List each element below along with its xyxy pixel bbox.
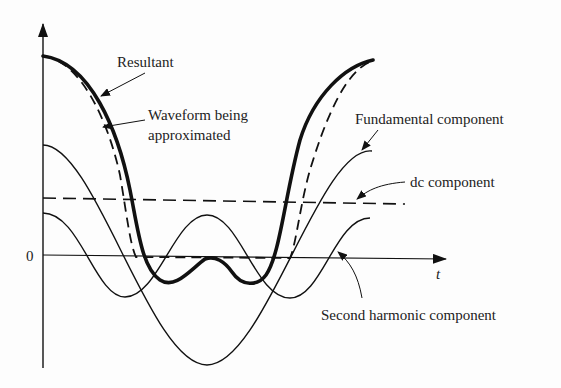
dc-component-line	[43, 198, 405, 204]
dc-label: dc component	[410, 174, 495, 190]
resultant-label: Resultant	[117, 54, 174, 70]
second-harmonic-label: Second harmonic component	[321, 307, 497, 323]
fundamental-arrow	[362, 130, 378, 150]
resultant-arrow	[101, 73, 145, 96]
resultant-curve	[43, 56, 373, 283]
fundamental-label: Fundamental component	[355, 111, 505, 127]
waveform-label-line1: Waveform being	[148, 107, 249, 123]
t-axis-label: t	[436, 266, 441, 282]
diagram-canvas: 0 t Resultant Waveform being approximate…	[0, 0, 561, 388]
dc-arrow	[357, 182, 405, 199]
origin-label: 0	[26, 248, 34, 264]
second-harmonic-arrow	[338, 252, 362, 298]
waveform-approximated-curve	[43, 56, 370, 258]
fourier-diagram: 0 t Resultant Waveform being approximate…	[0, 0, 561, 388]
waveform-label-line2: approximated	[148, 127, 231, 143]
